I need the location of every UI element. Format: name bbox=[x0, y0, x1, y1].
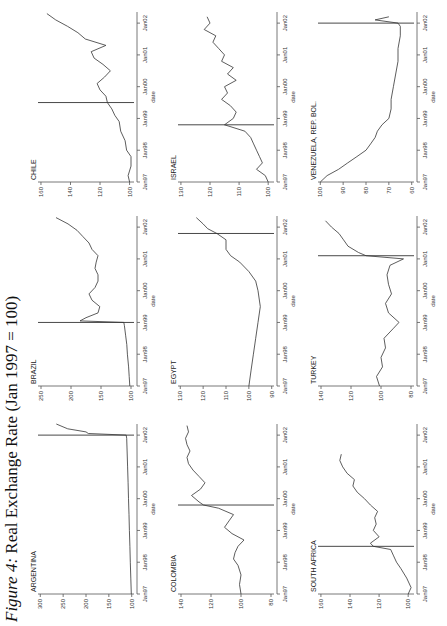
x-tick-label: Jan02 bbox=[282, 14, 288, 31]
series-line bbox=[320, 17, 400, 182]
x-tick-label: Jan99 bbox=[282, 314, 288, 331]
y-tick-label: 200 bbox=[68, 390, 74, 401]
panel-chile: CHILE100120140160Jan97Jan98Jan99Jan00Jan… bbox=[26, 8, 158, 204]
y-tick-label: 120 bbox=[207, 186, 213, 197]
figure-number: Figure 4: bbox=[2, 558, 21, 622]
x-axis-title: date bbox=[150, 295, 156, 307]
x-tick-label: Jan98 bbox=[282, 141, 288, 158]
x-tick-label: Jan99 bbox=[142, 314, 148, 331]
y-tick-label: 160 bbox=[318, 598, 324, 609]
x-tick-label: Jan98 bbox=[422, 141, 428, 158]
y-tick-label: 150 bbox=[106, 598, 112, 609]
panel-label: ARGENTINA bbox=[30, 551, 37, 592]
x-axis-title: date bbox=[290, 503, 296, 515]
y-tick-label: 120 bbox=[376, 598, 382, 609]
x-tick-label: Jan97 bbox=[142, 377, 148, 394]
y-tick-label: 90 bbox=[340, 186, 346, 193]
panel-label: EGYPT bbox=[170, 360, 177, 384]
y-tick-label: 130 bbox=[177, 390, 183, 401]
x-tick-label: Jan98 bbox=[142, 141, 148, 158]
x-tick-label: Jan00 bbox=[282, 78, 288, 95]
x-tick-label: Jan02 bbox=[282, 426, 288, 443]
x-axis-title: date bbox=[290, 91, 296, 103]
panel-label: CHILE bbox=[30, 159, 37, 180]
panel-argentina: ARGENTINA100150200250300Jan97Jan98Jan99J… bbox=[26, 420, 158, 616]
x-tick-label: Jan98 bbox=[142, 553, 148, 570]
line-chart: ISRAEL100110120130Jan97Jan98Jan99Jan00Ja… bbox=[166, 8, 298, 204]
series-line bbox=[196, 218, 260, 386]
y-tick-label: 100 bbox=[405, 598, 411, 609]
line-chart: ARGENTINA100150200250300Jan97Jan98Jan99J… bbox=[26, 420, 158, 616]
x-tick-label: Jan01 bbox=[422, 250, 428, 267]
panel-label: ISRAEL bbox=[170, 155, 177, 180]
x-tick-label: Jan97 bbox=[422, 377, 428, 394]
y-tick-label: 100 bbox=[317, 186, 323, 197]
x-tick-label: Jan01 bbox=[142, 458, 148, 475]
x-tick-label: Jan01 bbox=[142, 250, 148, 267]
x-tick-label: Jan00 bbox=[422, 490, 428, 507]
panel-label: TURKEY bbox=[310, 355, 317, 384]
y-tick-label: 100 bbox=[127, 186, 133, 197]
y-tick-label: 100 bbox=[128, 390, 134, 401]
y-tick-label: 120 bbox=[208, 598, 214, 609]
y-tick-label: 300 bbox=[37, 598, 43, 609]
y-tick-label: 200 bbox=[83, 598, 89, 609]
x-tick-label: Jan02 bbox=[422, 14, 428, 31]
panel-turkey: TURKEY80100120140Jan97Jan98Jan99Jan00Jan… bbox=[306, 212, 438, 408]
x-tick-label: Jan97 bbox=[142, 585, 148, 602]
y-tick-label: 60 bbox=[409, 186, 415, 193]
y-tick-label: 70 bbox=[386, 186, 392, 193]
y-tick-label: 100 bbox=[129, 598, 135, 609]
y-tick-label: 100 bbox=[246, 390, 252, 401]
x-axis-title: date bbox=[430, 91, 436, 103]
y-tick-label: 250 bbox=[38, 390, 44, 401]
figure: Figure 4: Real Exchange Rate (Jan 1997 =… bbox=[0, 0, 447, 626]
y-tick-label: 140 bbox=[347, 598, 353, 609]
y-tick-label: 80 bbox=[363, 186, 369, 193]
y-tick-label: 250 bbox=[60, 598, 66, 609]
y-tick-label: 110 bbox=[223, 390, 229, 400]
x-tick-label: Jan02 bbox=[282, 218, 288, 235]
x-axis-title: date bbox=[150, 503, 156, 515]
x-tick-label: Jan99 bbox=[142, 522, 148, 539]
series-line bbox=[204, 17, 268, 182]
x-axis-title: date bbox=[290, 295, 296, 307]
x-tick-label: Jan02 bbox=[422, 218, 428, 235]
panel-brazil: BRAZIL100150200250Jan97Jan98Jan99Jan00Ja… bbox=[26, 212, 158, 408]
x-tick-label: Jan97 bbox=[142, 173, 148, 190]
x-tick-label: Jan97 bbox=[282, 377, 288, 394]
x-tick-label: Jan01 bbox=[142, 46, 148, 63]
series-line bbox=[47, 14, 131, 182]
y-tick-label: 120 bbox=[348, 390, 354, 401]
x-tick-label: Jan97 bbox=[282, 585, 288, 602]
x-tick-label: Jan98 bbox=[282, 345, 288, 362]
x-tick-label: Jan02 bbox=[422, 426, 428, 443]
x-tick-label: Jan99 bbox=[422, 314, 428, 331]
panel-israel: ISRAEL100110120130Jan97Jan98Jan99Jan00Ja… bbox=[166, 8, 298, 204]
x-tick-label: Jan01 bbox=[282, 46, 288, 63]
line-chart: TURKEY80100120140Jan97Jan98Jan99Jan00Jan… bbox=[306, 212, 438, 408]
y-tick-label: 110 bbox=[236, 186, 242, 196]
series-line bbox=[340, 454, 411, 594]
y-tick-label: 80 bbox=[408, 390, 414, 397]
series-line bbox=[56, 218, 130, 386]
series-line bbox=[56, 424, 131, 594]
panel-label: BRAZIL bbox=[30, 359, 37, 384]
x-tick-label: Jan97 bbox=[282, 173, 288, 190]
y-tick-label: 90 bbox=[269, 390, 275, 397]
y-tick-label: 120 bbox=[97, 186, 103, 197]
line-chart: CHILE100120140160Jan97Jan98Jan99Jan00Jan… bbox=[26, 8, 158, 204]
y-tick-label: 80 bbox=[268, 598, 274, 605]
x-axis-title: date bbox=[150, 91, 156, 103]
panel-venezuela: VENEZUELA, REP. BOL.60708090100Jan97Jan9… bbox=[306, 8, 438, 204]
x-tick-label: Jan01 bbox=[282, 250, 288, 267]
y-tick-label: 140 bbox=[178, 598, 184, 609]
y-tick-label: 150 bbox=[98, 390, 104, 401]
x-tick-label: Jan98 bbox=[142, 345, 148, 362]
x-tick-label: Jan99 bbox=[422, 522, 428, 539]
y-tick-label: 140 bbox=[318, 390, 324, 401]
x-tick-label: Jan97 bbox=[422, 173, 428, 190]
y-tick-label: 100 bbox=[378, 390, 384, 401]
x-tick-label: Jan01 bbox=[422, 46, 428, 63]
x-axis-title: date bbox=[430, 503, 436, 515]
